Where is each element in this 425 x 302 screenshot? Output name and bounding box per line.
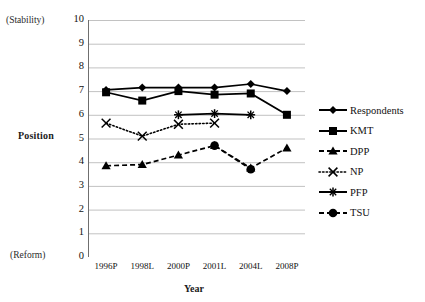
data-point-square (138, 97, 146, 105)
legend-item-respondents[interactable]: Respondents (318, 100, 422, 121)
legend-label: TSU (350, 207, 370, 218)
series-line (106, 91, 287, 115)
x-tick-label: 2001L (203, 261, 227, 271)
y-axis-tick-labels: 109876543210 (60, 0, 84, 302)
plot-svg (88, 20, 305, 257)
plot-area (88, 20, 305, 257)
y-tick-label: 4 (64, 155, 84, 166)
y-tick-label: 3 (64, 179, 84, 190)
legend-marker-x-icon (318, 165, 348, 179)
stability-reform-line-chart: (Stability) (Reform) Position Year 10987… (0, 0, 425, 302)
legend-label: DPP (350, 146, 369, 157)
series-dpp (101, 141, 291, 172)
legend-marker-circle-icon (318, 206, 348, 220)
x-tick-label: 2008P (275, 261, 298, 271)
legend-marker-triangle-icon (318, 144, 348, 158)
legend-item-tsu[interactable]: TSU (318, 203, 422, 224)
y-axis-bottom-annotation: (Reform) (10, 250, 45, 260)
x-tick-label: 1998L (131, 261, 155, 271)
data-point-square (102, 88, 110, 96)
data-point-circle (246, 165, 255, 174)
data-point-diamond (247, 80, 255, 88)
data-point-circle (329, 208, 338, 217)
y-tick-label: 1 (64, 226, 84, 237)
x-axis-title: Year (184, 283, 204, 294)
x-tick-label: 1996P (95, 261, 118, 271)
data-point-square (174, 87, 182, 95)
data-point-circle (210, 141, 219, 150)
data-point-x (102, 119, 111, 128)
y-tick-label: 10 (64, 13, 84, 24)
data-point-diamond (138, 84, 146, 92)
y-axis-title: Position (18, 130, 54, 141)
series-pfp (174, 109, 255, 119)
legend-label: Respondents (350, 105, 404, 116)
legend-label: NP (350, 166, 363, 177)
data-point-diamond (283, 87, 291, 95)
series-line (106, 123, 215, 136)
y-tick-label: 6 (64, 108, 84, 119)
legend-marker-diamond-icon (318, 103, 348, 117)
series-line (106, 146, 287, 169)
x-tick-label: 2000P (167, 261, 190, 271)
data-point-star (246, 110, 255, 119)
data-point-square (283, 111, 291, 119)
chart-legend: RespondentsKMTDPPNPPFPTSU (318, 100, 422, 223)
legend-label: PFP (350, 187, 368, 198)
data-point-star (174, 110, 183, 119)
y-axis-top-annotation: (Stability) (6, 15, 45, 25)
y-tick-label: 5 (64, 132, 84, 143)
y-tick-label: 7 (64, 84, 84, 95)
legend-marker-star-icon (318, 185, 348, 199)
data-point-square (211, 91, 219, 99)
legend-item-dpp[interactable]: DPP (318, 141, 422, 162)
legend-item-np[interactable]: NP (318, 162, 422, 183)
y-tick-label: 0 (64, 250, 84, 261)
data-point-square (247, 89, 255, 97)
series-line (106, 84, 287, 91)
data-point-diamond (329, 106, 337, 114)
data-point-star (329, 188, 338, 197)
x-tick-label: 2004L (239, 261, 263, 271)
legend-item-pfp[interactable]: PFP (318, 182, 422, 203)
data-point-square (329, 127, 337, 135)
y-tick-label: 8 (64, 60, 84, 71)
data-point-star (210, 109, 219, 118)
series-np (102, 119, 219, 141)
data-point-triangle (282, 143, 291, 151)
data-point-diamond (211, 84, 219, 92)
y-tick-label: 2 (64, 203, 84, 214)
legend-marker-square-icon (318, 124, 348, 138)
x-axis-tick-labels: 1996P1998L2000P2001L2004L2008P (88, 259, 305, 275)
legend-label: KMT (350, 125, 373, 136)
y-tick-label: 9 (64, 37, 84, 48)
legend-item-kmt[interactable]: KMT (318, 121, 422, 142)
